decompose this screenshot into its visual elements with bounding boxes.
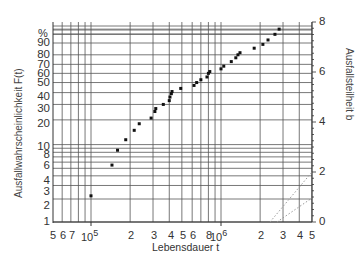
right-axis-ticks [312,22,316,222]
y-tick-label-right: 4 [319,116,325,127]
data-point [253,47,256,50]
data-point [179,87,182,90]
x-tick-label: 4 [168,230,174,241]
data-point [230,60,233,63]
data-point [261,43,264,46]
data-point [124,138,127,141]
y-tick-label-right: 8 [319,16,325,27]
y-tick-label-left: 30 [37,103,50,114]
data-points [90,28,281,198]
y-tick-label-right: 0 [319,216,325,227]
y-tick-label-left: 2 [44,200,50,211]
data-point [238,51,241,54]
x-tick-label: 2 [258,230,264,241]
x-tick-label: 5 [50,230,56,241]
y-tick-label-right: 2 [319,166,325,177]
x-tick-label: 5 [309,230,315,241]
y-tick-label-left: 6 [44,160,50,171]
x-tick-label: 2 [128,230,134,241]
percent-unit-label: % [38,28,48,39]
data-point [162,103,165,106]
y-tick-label-right: 6 [319,66,325,77]
dotted-reference-line [277,198,312,222]
y-axis-title-right: Ausfallsteilheit b [344,48,355,120]
weibull-chart [0,0,363,263]
data-point [273,33,276,36]
x-tick-label: 5 [180,230,186,241]
data-point [220,67,223,70]
data-point [133,129,136,132]
reference-lines [270,172,312,222]
x-tick-label: 6 [60,230,66,241]
dotted-reference-line [270,172,312,222]
data-point [168,99,171,102]
y-tick-label-left: 50 [37,77,50,88]
x-tick-label: 4 [297,230,303,241]
x-axis-title: Lebensdauer t [152,241,219,253]
data-point [168,96,171,99]
x-tick-label: 6 [190,230,196,241]
data-point [208,70,211,73]
x-tick-label-1e5: 105 [81,228,98,243]
data-point [205,75,208,78]
y-axis-title-left: Ausfallwahrscheinlichkeit F(t) [13,69,24,199]
data-point [90,194,93,197]
y-tick-label-left: 3 [44,186,50,197]
x-tick-label: 3 [280,230,286,241]
vertical-gridlines [62,22,312,222]
x-tick-label: 3 [151,230,157,241]
data-point [278,28,281,31]
horizontal-gridlines [53,26,312,222]
data-point [234,56,237,59]
data-point [153,110,156,113]
data-point [138,122,141,125]
data-point [154,107,157,110]
data-point [171,90,174,93]
data-point [116,149,119,152]
x-tick-label: 7 [69,230,75,241]
y-tick-label-left: 40 [37,91,50,102]
data-point [199,78,202,81]
data-point [195,81,198,84]
data-point [110,164,113,167]
y-tick-label-left: 20 [37,118,50,129]
data-point [150,117,153,120]
data-point [267,38,270,41]
y-tick-label-left: 1 [44,216,50,227]
data-point [222,65,225,68]
data-point [193,84,196,87]
